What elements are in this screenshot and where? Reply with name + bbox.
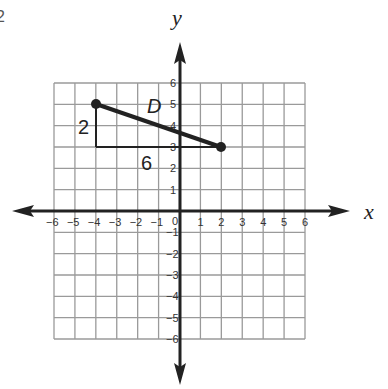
x-tick-label: 3: [239, 216, 245, 228]
y-tick-label: 1: [170, 184, 176, 196]
x-tick-label: 5: [281, 216, 287, 228]
y-tick-label: 5: [170, 98, 176, 110]
x-tick-label: 4: [260, 216, 266, 228]
x-tick-label: −2: [130, 216, 143, 228]
y-tick-label: −1: [166, 226, 179, 238]
endpoint-end: [216, 142, 226, 152]
endpoint-start: [91, 99, 101, 109]
x-tick-label: −3: [109, 216, 122, 228]
y-tick-label: −4: [166, 290, 179, 302]
x-tick-label: −4: [88, 216, 101, 228]
segment-label: D: [147, 95, 161, 117]
x-tick-label: −5: [67, 216, 80, 228]
x-tick-label: 6: [302, 216, 308, 228]
y-tick-label: −2: [166, 248, 179, 260]
x-axis-label: x: [363, 199, 374, 224]
x-tick-label: −1: [151, 216, 164, 228]
y-tick-label: 6: [170, 77, 176, 89]
y-tick-label: −3: [166, 269, 179, 281]
x-tick-label: 2: [218, 216, 224, 228]
rise-label: 2: [78, 116, 89, 138]
coordinate-plane-diagram: 2 x y −6−5−4−3−2−1123456 654321−1−2−3−4−…: [0, 0, 388, 389]
cropped-question-number: 2: [0, 8, 5, 25]
y-tick-label: −6: [166, 333, 179, 345]
y-tick-label: 2: [170, 162, 176, 174]
y-axis-label: y: [170, 5, 182, 30]
run-label: 6: [141, 152, 152, 174]
x-tick-label: 1: [197, 216, 203, 228]
x-tick-label: −6: [46, 216, 59, 228]
origin-label: 0: [172, 215, 178, 227]
y-tick-label: −5: [166, 312, 179, 324]
